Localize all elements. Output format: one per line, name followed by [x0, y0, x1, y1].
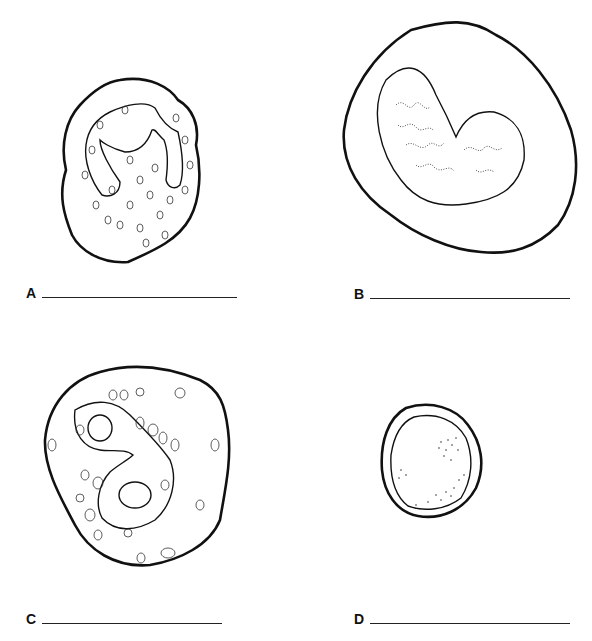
label-row-b: B — [354, 287, 570, 301]
chromatin-dots-d — [398, 437, 465, 506]
panel-a: A — [0, 0, 296, 320]
answer-line-b[interactable] — [370, 298, 570, 299]
answer-line-d[interactable] — [370, 623, 570, 624]
cell-c-illustration — [0, 320, 296, 641]
answer-line-c[interactable] — [42, 623, 222, 624]
panel-d: D — [296, 320, 592, 641]
panel-label: A — [26, 286, 36, 300]
cell-b-illustration — [296, 0, 592, 320]
panel-c: C — [0, 320, 296, 641]
panel-label: B — [354, 287, 364, 301]
cell-a-illustration — [0, 0, 296, 320]
label-row-c: C — [26, 612, 222, 626]
panel-label: C — [26, 612, 36, 626]
label-row-d: D — [354, 612, 570, 626]
panel-b: B — [296, 0, 592, 320]
answer-line-a[interactable] — [42, 297, 237, 298]
granules-a — [82, 106, 193, 247]
granules-c — [48, 388, 219, 563]
cell-d-illustration — [296, 320, 592, 641]
label-row-a: A — [26, 286, 237, 300]
panel-label: D — [354, 612, 364, 626]
